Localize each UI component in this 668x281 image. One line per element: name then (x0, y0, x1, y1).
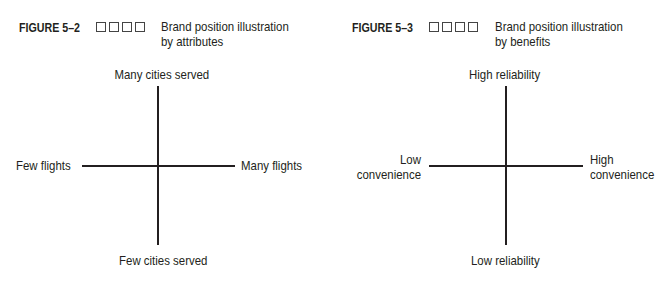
square-icon (96, 22, 106, 32)
square-icon (455, 22, 465, 32)
axis-label-top: High reliability (469, 67, 540, 82)
axis-label-left-line1: Low (357, 152, 421, 167)
figure-title-line1: Brand position illustration (495, 19, 623, 34)
square-icon (429, 22, 439, 32)
square-icon (135, 22, 145, 32)
axis-label-bottom: Few cities served (119, 253, 207, 268)
horizontal-axis (429, 165, 583, 167)
figure-title: Brand position illustration by attribute… (161, 19, 289, 49)
axis-label-right: High convenience (590, 152, 654, 182)
figure-title: Brand position illustration by benefits (495, 19, 623, 49)
figure-title-line2: by attributes (161, 34, 289, 49)
axis-label-bottom: Low reliability (471, 253, 540, 268)
figure-title-line1: Brand position illustration (161, 19, 289, 34)
axis-label-right: Many flights (241, 158, 302, 173)
figure-number: FIGURE 5–2 (19, 20, 80, 35)
horizontal-axis (82, 165, 235, 167)
figure-number: FIGURE 5–3 (352, 20, 413, 35)
square-icon (442, 22, 452, 32)
decorative-boxes (96, 22, 148, 34)
square-icon (122, 22, 132, 32)
axis-label-right-line1: High (590, 152, 654, 167)
axis-label-top: Many cities served (114, 67, 209, 82)
axis-label-right-line2: convenience (590, 167, 654, 182)
figure-title-line2: by benefits (495, 34, 623, 49)
axis-label-left: Few flights (16, 158, 71, 173)
square-icon (109, 22, 119, 32)
square-icon (468, 22, 478, 32)
decorative-boxes (429, 22, 481, 34)
axis-label-left: Low convenience (357, 152, 421, 182)
axis-label-left-line2: convenience (357, 167, 421, 182)
